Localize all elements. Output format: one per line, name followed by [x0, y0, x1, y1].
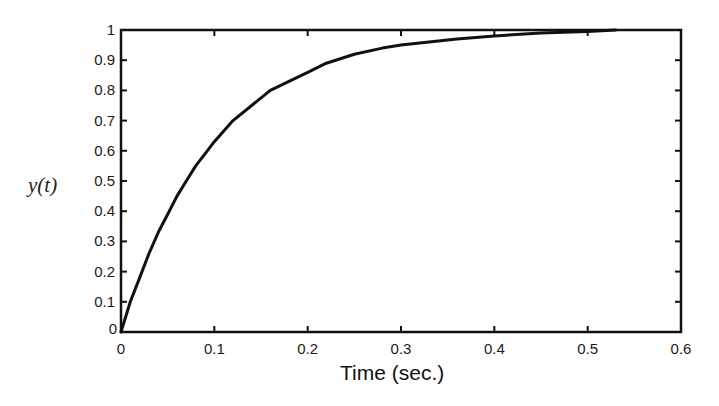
y-tick-label: 0.7: [94, 112, 115, 129]
y-tick-label: 0.8: [94, 81, 115, 98]
x-tick-label: 0.4: [484, 340, 505, 357]
y-tick-label: 0.5: [94, 172, 115, 189]
x-axis-ticks: 00.10.20.30.40.50.6: [117, 30, 692, 357]
plot-frame: [121, 30, 681, 332]
response-curve: [121, 30, 616, 332]
y-tick-label: 0.1: [94, 293, 115, 310]
x-tick-label: 0.5: [577, 340, 598, 357]
y-tick-label: 0: [109, 320, 117, 337]
y-axis-label: y(t): [26, 173, 57, 197]
x-tick-label: 0.3: [391, 340, 412, 357]
x-tick-label: 0.1: [204, 340, 225, 357]
y-tick-label: 0.2: [94, 263, 115, 280]
y-tick-label: 0.6: [94, 142, 115, 159]
y-tick-label: 1: [107, 21, 115, 38]
x-tick-label: 0.6: [671, 340, 692, 357]
y-tick-label: 0.3: [94, 232, 115, 249]
step-response-chart: 00.10.20.30.40.50.60.70.80.91 00.10.20.3…: [0, 0, 719, 406]
axes-box: [121, 30, 681, 332]
y-tick-label: 0.4: [94, 202, 115, 219]
y-tick-label: 0.9: [94, 51, 115, 68]
x-tick-label: 0.2: [297, 340, 318, 357]
x-axis-label: Time (sec.): [340, 361, 444, 384]
y-axis-ticks: 00.10.20.30.40.50.60.70.80.91: [94, 21, 681, 337]
x-tick-label: 0: [117, 340, 125, 357]
